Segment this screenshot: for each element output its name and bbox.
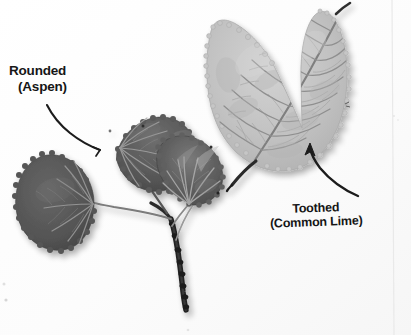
leaf-specimen-photograph	[0, 0, 411, 335]
photograph-canvas: Rounded (Aspen) Toothed (Common Lime)	[0, 0, 411, 335]
annotation-label-toothed-common-lime: Toothed (Common Lime)	[269, 199, 362, 231]
annotation-rounded-line1: Rounded	[9, 63, 66, 78]
annotation-toothed-line1: Toothed	[292, 200, 339, 216]
annotation-label-rounded-aspen: Rounded (Aspen)	[9, 63, 67, 94]
annotation-rounded-line2: (Aspen)	[9, 79, 67, 95]
